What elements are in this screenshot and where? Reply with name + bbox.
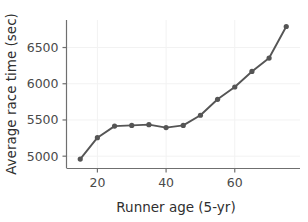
chart-figure: 5000550060006500 204060 Runner age (5-yr…	[0, 0, 308, 222]
data-point	[112, 124, 117, 129]
data-point	[95, 135, 100, 140]
y-axis-title: Average race time (sec)	[3, 13, 19, 175]
data-point	[284, 24, 289, 29]
data-point	[129, 123, 134, 128]
y-tick-label: 6000	[27, 76, 59, 91]
data-point	[163, 125, 168, 130]
data-point	[249, 69, 254, 74]
y-tick-label: 6500	[27, 40, 59, 55]
x-tick-label: 20	[89, 175, 105, 190]
line-chart: 5000550060006500 204060 Runner age (5-yr…	[0, 0, 308, 222]
x-tick-label: 40	[158, 175, 174, 190]
y-tick-label: 5000	[27, 149, 59, 164]
data-point	[215, 97, 220, 102]
y-tick-label: 5500	[27, 112, 59, 127]
data-point	[198, 113, 203, 118]
chart-background	[0, 0, 308, 222]
data-point	[232, 84, 237, 89]
data-point	[146, 122, 151, 127]
data-point	[78, 156, 83, 161]
x-tick-label: 60	[227, 175, 243, 190]
data-point	[267, 55, 272, 60]
data-point	[181, 123, 186, 128]
x-axis-title: Runner age (5-yr)	[116, 199, 235, 215]
